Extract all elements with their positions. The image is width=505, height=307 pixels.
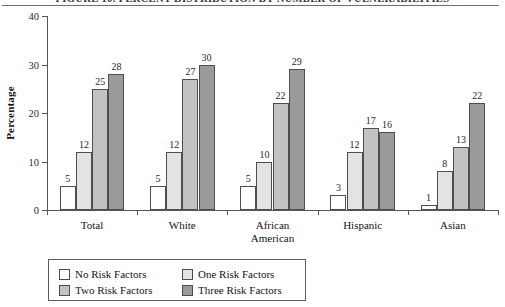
bar-value-label: 5 [156,174,161,184]
bar [453,147,469,210]
bar-value-label: 12 [350,140,360,150]
bar-value-label: 10 [259,150,269,160]
x-tick [227,210,228,215]
x-category-label: African American [251,219,294,244]
x-axis-line [47,210,498,211]
plot-area: 010203040 512252851227305102229312171618… [47,16,498,210]
x-tick [498,210,499,215]
bar-value-label: 5 [65,174,70,184]
x-category-label: Asian [440,219,466,232]
x-category-label: Hispanic [343,219,382,232]
legend-item: No Risk Factors [59,268,147,280]
legend-swatch [59,269,70,280]
bar-value-label: 13 [456,135,466,145]
x-category-label: White [169,219,196,232]
bar-value-label: 8 [442,159,447,169]
bar [256,162,272,211]
bar [347,152,363,210]
y-tick: 20 [42,113,47,114]
legend-swatch [59,285,70,296]
bar-value-label: 28 [111,62,121,72]
legend-label: Three Risk Factors [198,284,282,296]
bar [379,132,395,210]
bar-value-label: 17 [366,116,376,126]
bar [60,186,76,210]
y-tick: 10 [42,162,47,163]
bar [363,128,379,210]
bar [150,186,166,210]
bar-value-label: 12 [79,140,89,150]
bar-value-label: 27 [185,67,195,77]
title-divider-rule [2,5,499,6]
bar-value-label: 12 [169,140,179,150]
bar [92,89,108,210]
y-axis-line [47,16,48,210]
y-tick-label: 0 [34,206,39,217]
bar [273,103,289,210]
bar [330,195,346,210]
bar-value-label: 3 [336,183,341,193]
bar-value-label: 1 [426,193,431,203]
bar-value-label: 25 [95,77,105,87]
bar [469,103,485,210]
legend-item: One Risk Factors [182,268,274,280]
legend-label: No Risk Factors [75,268,147,280]
bar [108,74,124,210]
bar-value-label: 22 [276,91,286,101]
bar [421,205,437,210]
bar-value-label: 29 [292,57,302,67]
bar [199,65,215,211]
y-tick-label: 10 [29,157,40,168]
bar-value-label: 22 [472,91,482,101]
bar-value-label: 16 [382,120,392,130]
x-category-label: Total [81,219,103,232]
y-tick: 40 [42,16,47,17]
y-tick-label: 40 [29,12,40,23]
chart-legend: No Risk FactorsOne Risk FactorsTwo Risk … [48,259,306,301]
y-tick: 30 [42,65,47,66]
bar-value-label: 5 [246,174,251,184]
bar [182,79,198,210]
legend-item: Three Risk Factors [182,284,282,296]
y-tick-label: 30 [29,60,40,71]
legend-swatch [182,285,193,296]
y-tick-label: 20 [29,109,40,120]
bar-value-label: 30 [202,53,212,63]
bar [240,186,256,210]
figure-bar-chart: FIGURE 10. PERCENT DISTRIBUTION BY NUMBE… [0,0,505,307]
legend-item: Two Risk Factors [59,284,152,296]
legend-label: One Risk Factors [198,268,274,280]
y-axis-title: Percentage [4,86,16,140]
x-tick [47,210,48,215]
x-tick [318,210,319,215]
x-tick [137,210,138,215]
bar [437,171,453,210]
x-tick [408,210,409,215]
bar [166,152,182,210]
bar [289,69,305,210]
legend-label: Two Risk Factors [75,284,152,296]
bar [76,152,92,210]
legend-swatch [182,269,193,280]
